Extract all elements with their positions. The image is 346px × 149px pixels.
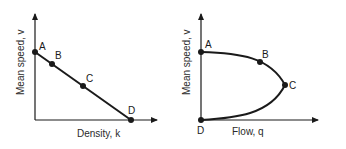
figure: A B C D Density, k Mean speed, v A B C D… xyxy=(0,0,346,149)
speed-density-chart: A B C D Density, k Mean speed, v xyxy=(15,14,157,139)
point-label-c: C xyxy=(86,73,93,84)
point-a xyxy=(198,49,204,55)
speed-flow-chart: A B C D Flow, q Mean speed, v xyxy=(181,14,318,137)
point-b xyxy=(49,61,55,67)
point-label-a: A xyxy=(39,41,46,52)
point-label-d: D xyxy=(128,105,135,116)
point-label-c: C xyxy=(289,80,296,91)
point-label-d: D xyxy=(197,125,204,136)
point-a xyxy=(32,49,38,55)
x-axis-label: Flow, q xyxy=(232,126,264,137)
y-axis-label: Mean speed, v xyxy=(181,29,192,95)
x-axis-label: Density, k xyxy=(77,128,121,139)
point-d xyxy=(128,117,134,123)
point-label-b: B xyxy=(55,50,62,61)
speed-flow-curve xyxy=(201,52,285,120)
point-label-b: B xyxy=(262,49,269,60)
point-c xyxy=(282,82,288,88)
point-d xyxy=(198,117,204,123)
point-label-a: A xyxy=(205,39,212,50)
y-axis-label: Mean speed, v xyxy=(15,29,26,95)
